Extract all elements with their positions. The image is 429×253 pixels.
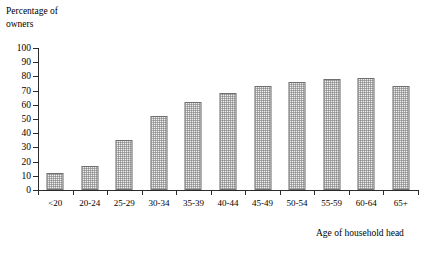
y-axis-title: Percentage of owners bbox=[6, 5, 58, 31]
bar bbox=[185, 102, 202, 190]
x-axis-line bbox=[38, 190, 419, 191]
bar-slot bbox=[280, 48, 315, 190]
y-axis-tick-label: 10 bbox=[22, 171, 32, 181]
x-axis-tick bbox=[211, 190, 212, 195]
bar bbox=[47, 173, 64, 190]
x-axis-category-label: 45-49 bbox=[252, 198, 273, 208]
x-axis-tick bbox=[73, 190, 74, 195]
x-axis-tick bbox=[383, 190, 384, 195]
y-axis-title-line-2: owners bbox=[6, 18, 58, 31]
bar-slot bbox=[245, 48, 280, 190]
x-axis-category-label: 50-54 bbox=[287, 198, 308, 208]
bar bbox=[323, 79, 340, 190]
x-axis-tick bbox=[38, 190, 39, 195]
x-axis-tick bbox=[107, 190, 108, 195]
bar bbox=[150, 116, 167, 190]
y-axis-tick-label: 40 bbox=[22, 128, 32, 138]
bar-slot bbox=[142, 48, 177, 190]
bar-slot bbox=[176, 48, 211, 190]
x-axis-category-label: 65+ bbox=[394, 198, 408, 208]
x-axis-category-label: 20-24 bbox=[79, 198, 100, 208]
x-axis-title: Age of household head bbox=[316, 228, 404, 238]
plot-area: 0102030405060708090100 bbox=[38, 48, 418, 190]
bar-slot bbox=[38, 48, 73, 190]
bar bbox=[254, 86, 271, 190]
x-axis-category-label: 30-34 bbox=[148, 198, 169, 208]
x-axis-category-label: 60-64 bbox=[356, 198, 377, 208]
y-axis-tick-label: 50 bbox=[22, 114, 32, 124]
bar-slot bbox=[314, 48, 349, 190]
x-axis-tick bbox=[176, 190, 177, 195]
x-axis-category-label: 55-59 bbox=[321, 198, 342, 208]
bar-slot bbox=[211, 48, 246, 190]
x-axis-tick bbox=[314, 190, 315, 195]
x-axis-tick bbox=[245, 190, 246, 195]
bar-chart: Percentage of owners 0102030405060708090… bbox=[0, 0, 429, 253]
y-axis-tick-label: 60 bbox=[22, 100, 32, 110]
x-axis-category-label: 40-44 bbox=[218, 198, 239, 208]
bar bbox=[219, 93, 236, 190]
bar bbox=[358, 78, 375, 190]
x-axis-category-label: 35-39 bbox=[183, 198, 204, 208]
x-axis-tick bbox=[280, 190, 281, 195]
bar-slot bbox=[73, 48, 108, 190]
bar-slot bbox=[107, 48, 142, 190]
bar-slot bbox=[349, 48, 384, 190]
bar bbox=[289, 82, 306, 190]
bar bbox=[392, 86, 409, 190]
y-axis-tick-label: 70 bbox=[22, 86, 32, 96]
bar bbox=[116, 140, 133, 190]
y-axis-tick-label: 30 bbox=[22, 142, 32, 152]
x-axis-category-label: 25-29 bbox=[114, 198, 135, 208]
x-axis-tick bbox=[349, 190, 350, 195]
x-axis-tick bbox=[142, 190, 143, 195]
y-axis-tick-label: 100 bbox=[17, 43, 31, 53]
y-axis-tick-label: 90 bbox=[22, 57, 32, 67]
bar bbox=[81, 166, 98, 190]
y-axis-tick-label: 20 bbox=[22, 157, 32, 167]
x-axis-tick bbox=[418, 190, 419, 195]
x-axis-category-label: <20 bbox=[48, 198, 62, 208]
bar-slot bbox=[383, 48, 418, 190]
y-axis-tick-label: 80 bbox=[22, 71, 32, 81]
y-axis-title-line-1: Percentage of bbox=[6, 5, 58, 18]
y-axis-tick-label: 0 bbox=[26, 185, 31, 195]
